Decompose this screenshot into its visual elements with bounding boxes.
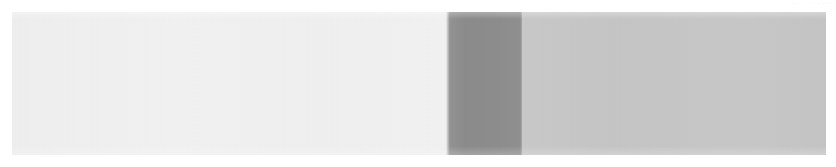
band-mid <box>522 12 826 155</box>
band-dark <box>448 12 522 155</box>
scanned-page: ·· ··· ···· <box>0 0 836 167</box>
content-strip <box>12 12 826 155</box>
clipped-header-text: ·· ··· ···· <box>750 0 834 7</box>
band-light <box>12 12 448 155</box>
